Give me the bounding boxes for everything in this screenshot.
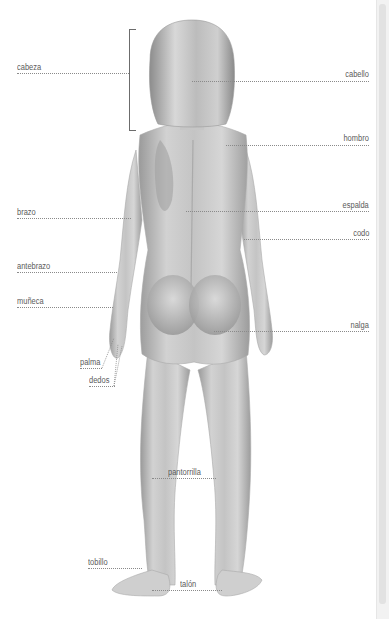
- leader-talon: [152, 590, 222, 591]
- label-hombro: hombro: [344, 133, 369, 143]
- leader-muneca: [17, 307, 113, 308]
- scrollbar-thumb[interactable]: [379, 4, 386, 604]
- body-illustration: [0, 0, 377, 619]
- label-tobillo: tobillo: [88, 557, 108, 567]
- leader-antebrazo: [17, 272, 117, 273]
- label-dedos: dedos: [89, 375, 109, 385]
- leader-pantorrilla: [152, 478, 216, 479]
- head-bracket: [129, 29, 136, 131]
- leader-cabeza: [17, 73, 129, 74]
- leader-hombro: [226, 145, 369, 146]
- diagram-canvas: · · · · · · · · ·: [0, 0, 377, 619]
- label-cabello: cabello: [345, 69, 369, 79]
- leader-codo: [244, 239, 369, 240]
- label-nalga: nalga: [351, 320, 369, 330]
- label-brazo: brazo: [17, 207, 36, 217]
- label-muneca: muñeca: [17, 296, 44, 306]
- label-talon: talón: [180, 579, 196, 589]
- leader-espalda: [186, 211, 369, 212]
- leader-tobillo: [88, 568, 142, 569]
- label-codo: codo: [353, 228, 369, 238]
- leader-cabello: [192, 81, 369, 82]
- leader-dedos: [89, 386, 115, 387]
- label-cabeza: cabeza: [17, 62, 41, 72]
- leader-brazo: [17, 218, 131, 219]
- leader-nalga: [214, 331, 369, 332]
- label-pantorrilla: pantorrilla: [168, 467, 201, 477]
- label-espalda: espalda: [343, 200, 369, 210]
- label-antebrazo: antebrazo: [17, 261, 50, 271]
- label-palma: palma: [80, 357, 100, 367]
- leader-palma: [80, 368, 102, 369]
- vertical-scrollbar[interactable]: [376, 0, 389, 619]
